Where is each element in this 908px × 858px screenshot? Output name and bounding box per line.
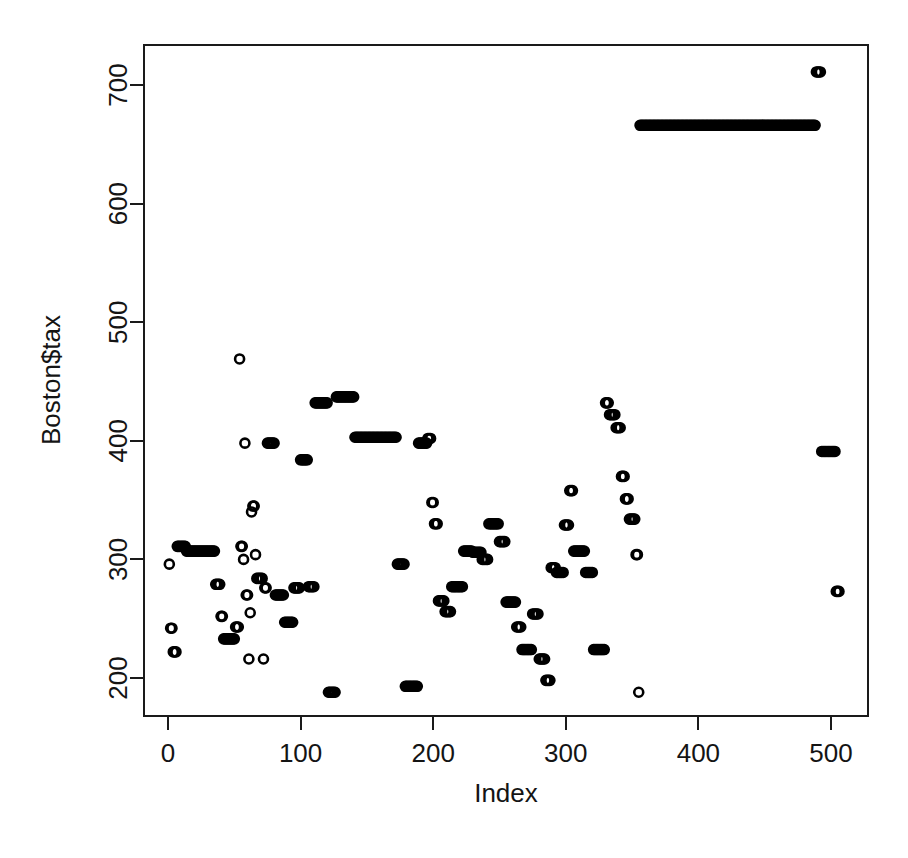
plot-canvas: 0100200300400500 200300400500600700 Inde… bbox=[0, 0, 908, 858]
scatter-plot-figure: 0100200300400500 200300400500600700 Inde… bbox=[0, 0, 908, 858]
y-axis-title: Boston$tax bbox=[36, 315, 66, 445]
y-tick-label: 200 bbox=[103, 656, 133, 699]
y-tick-label: 700 bbox=[103, 63, 133, 106]
x-tick-label: 300 bbox=[544, 738, 587, 768]
x-tick-label: 100 bbox=[279, 738, 322, 768]
x-axis-title: Index bbox=[474, 778, 538, 808]
x-tick-label: 200 bbox=[412, 738, 455, 768]
y-tick-label: 600 bbox=[103, 182, 133, 225]
y-tick-label: 400 bbox=[103, 419, 133, 462]
x-tick-label: 0 bbox=[161, 738, 175, 768]
x-tick-label: 500 bbox=[809, 738, 852, 768]
x-tick-label: 400 bbox=[677, 738, 720, 768]
y-tick-label: 500 bbox=[103, 301, 133, 344]
y-tick-label: 300 bbox=[103, 538, 133, 581]
